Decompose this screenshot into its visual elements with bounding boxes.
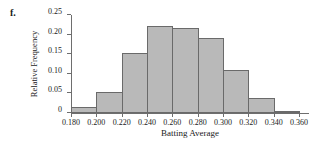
y-tick-label: 0.10: [48, 67, 62, 75]
histogram-bar: [147, 26, 173, 113]
x-tick: [147, 113, 148, 117]
x-tick-label: 0.300: [214, 119, 232, 127]
figure-container: f. Relative Frequency 00.050.100.150.200…: [0, 0, 319, 148]
y-tick: 0.25: [67, 14, 71, 15]
x-tick: [122, 113, 123, 117]
part-label: f.: [10, 8, 16, 18]
x-tick: [248, 113, 249, 117]
x-tick-label: 0.260: [163, 119, 181, 127]
x-tick: [299, 113, 300, 117]
y-tick-label: 0: [58, 106, 62, 114]
y-tick: 0.20: [67, 34, 71, 35]
histogram-bar: [96, 92, 122, 113]
plot-area: 00.050.100.150.200.25 0.1800.2000.2200.2…: [71, 15, 299, 113]
histogram-bar: [223, 70, 249, 113]
y-tick-label: 0.15: [48, 47, 62, 55]
x-tick-label: 0.280: [189, 119, 207, 127]
y-tick: 0.10: [67, 73, 71, 74]
y-tick-label: 0.20: [48, 28, 62, 36]
y-tick-label: 0.25: [48, 8, 62, 16]
x-tick-label: 0.200: [87, 119, 105, 127]
y-tick: 0.15: [67, 53, 71, 54]
x-tick-label: 0.360: [290, 119, 308, 127]
x-tick-label: 0.220: [113, 119, 131, 127]
y-tick: 0.05: [67, 92, 71, 93]
histogram-bar: [172, 28, 198, 113]
x-tick: [198, 113, 199, 117]
x-tick-label: 0.240: [138, 119, 156, 127]
x-tick: [172, 113, 173, 117]
x-tick-label: 0.320: [239, 119, 257, 127]
y-axis-title: Relative Frequency: [28, 15, 41, 113]
histogram-bar: [122, 53, 148, 113]
x-tick: [71, 113, 72, 117]
x-tick: [96, 113, 97, 117]
histogram-bar: [274, 111, 300, 113]
x-axis-title: Batting Average: [71, 128, 309, 139]
histogram-bar: [248, 98, 274, 113]
y-tick-label: 0.05: [48, 86, 62, 94]
y-axis-line: [71, 15, 72, 113]
x-tick-label: 0.180: [62, 119, 80, 127]
x-tick-label: 0.340: [265, 119, 283, 127]
histogram-bar: [71, 107, 97, 113]
histogram-bar: [198, 38, 224, 113]
x-tick: [223, 113, 224, 117]
x-tick: [274, 113, 275, 117]
